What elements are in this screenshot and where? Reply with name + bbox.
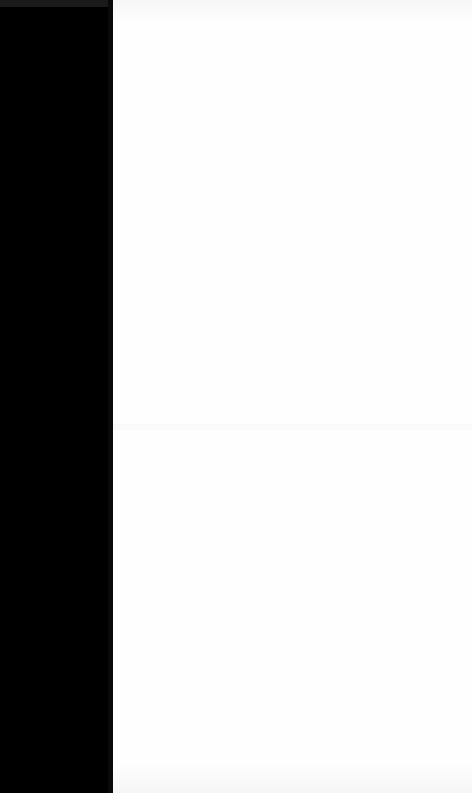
left-dark-panel bbox=[0, 0, 113, 793]
faint-divider bbox=[113, 424, 472, 430]
bottom-band bbox=[113, 763, 472, 793]
blank-content-area bbox=[113, 0, 472, 793]
top-band bbox=[113, 0, 472, 22]
screen bbox=[0, 0, 472, 793]
top-strip bbox=[0, 0, 108, 7]
